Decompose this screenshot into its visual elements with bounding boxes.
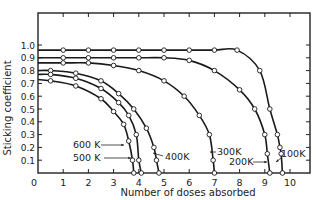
x-tick-label: 3: [111, 177, 117, 188]
data-point: [48, 79, 53, 84]
x-axis-label: Number of doses absorbed: [120, 187, 255, 198]
data-point: [280, 171, 285, 176]
data-point: [99, 79, 104, 84]
data-point: [265, 152, 270, 157]
data-point: [237, 88, 242, 93]
data-point: [212, 171, 217, 176]
label-400k: 400K: [165, 151, 190, 162]
data-point: [211, 158, 216, 163]
data-point: [131, 107, 136, 112]
data-point: [162, 79, 167, 84]
data-point: [268, 171, 273, 176]
data-point: [144, 126, 149, 131]
data-point: [111, 56, 116, 61]
data-point: [86, 56, 91, 61]
y-tick-label: 0.6: [21, 92, 36, 102]
data-point: [157, 171, 162, 176]
data-point: [162, 56, 167, 61]
data-point: [121, 122, 126, 127]
y-tick-label: 1.0: [21, 41, 36, 51]
data-point: [126, 113, 131, 118]
data-point: [61, 48, 66, 53]
data-point: [235, 48, 240, 53]
x-tick-label: 2: [85, 177, 91, 188]
label-200k: 200K: [229, 156, 254, 167]
data-point: [61, 61, 66, 66]
y-tick-label: 0.3: [21, 130, 35, 140]
y-tick-label: 0.8: [21, 66, 36, 76]
data-point: [134, 132, 139, 137]
y-tick-label: 0.1: [21, 156, 35, 166]
data-point: [111, 109, 116, 114]
data-point: [139, 171, 144, 176]
data-point: [48, 72, 53, 77]
data-point: [99, 96, 104, 101]
data-point: [137, 158, 142, 163]
data-point: [116, 100, 121, 105]
data-point: [252, 107, 257, 112]
x-tick-label: 0: [31, 177, 37, 188]
sticking-coefficient-chart: 0123456789100.10.20.30.40.50.60.70.80.91…: [0, 0, 317, 200]
data-point: [207, 132, 212, 137]
data-point: [187, 58, 192, 63]
data-point: [116, 91, 121, 96]
data-point: [61, 56, 66, 61]
data-point: [275, 132, 280, 137]
y-tick-label: 0.7: [21, 79, 35, 89]
data-point: [74, 84, 79, 89]
label-600k: 600 K: [73, 139, 101, 150]
y-tick-label: 0.9: [21, 53, 36, 63]
data-point: [131, 171, 136, 176]
data-point: [162, 48, 167, 53]
chart-canvas: 0123456789100.10.20.30.40.50.60.70.80.91…: [0, 0, 317, 200]
data-point: [137, 56, 142, 61]
x-tick-label: 9: [262, 177, 268, 188]
data-point: [187, 48, 192, 53]
y-tick-label: 0.5: [21, 105, 35, 115]
data-point: [182, 94, 187, 99]
data-point: [197, 113, 202, 118]
data-point: [212, 48, 217, 53]
data-point: [126, 139, 131, 144]
data-point: [74, 76, 79, 81]
data-point: [99, 86, 104, 91]
label-500k: 500 K: [73, 152, 101, 163]
data-point: [111, 63, 116, 68]
data-point: [130, 158, 135, 163]
data-point: [257, 68, 262, 73]
data-point: [74, 71, 79, 76]
x-tick-label: 10: [284, 177, 296, 188]
label-100k: 100K: [281, 148, 306, 159]
data-point: [86, 61, 91, 66]
data-point: [111, 48, 116, 53]
data-point: [86, 48, 91, 53]
x-tick-label: 1: [60, 177, 66, 188]
data-point: [137, 48, 142, 53]
y-tick-label: 0.4: [21, 117, 36, 127]
y-axis-label: Sticking coefficient: [2, 60, 13, 155]
data-point: [152, 145, 157, 150]
y-tick-label: 0.2: [21, 143, 35, 153]
data-point: [263, 132, 268, 137]
data-point: [268, 107, 273, 112]
curve-annotations: 600 K500 K400K300K200K100K: [73, 139, 306, 167]
data-point: [154, 158, 159, 163]
data-point: [137, 68, 142, 73]
data-point: [212, 68, 217, 73]
